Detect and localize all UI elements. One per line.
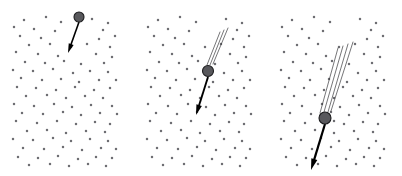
field-dot xyxy=(249,148,252,151)
field-dot xyxy=(166,139,169,142)
field-dot xyxy=(294,130,297,133)
field-dot xyxy=(13,103,16,106)
field-dot xyxy=(189,89,192,92)
figure-canvas xyxy=(0,0,402,176)
field-dot xyxy=(354,43,357,46)
field-dot xyxy=(284,86,287,89)
field-dot xyxy=(281,26,284,29)
field-dot xyxy=(46,129,49,132)
field-dot xyxy=(243,46,246,49)
field-dot xyxy=(68,165,71,168)
field-dot xyxy=(17,156,20,159)
field-dot xyxy=(204,46,207,49)
field-dot xyxy=(348,114,351,117)
field-dot xyxy=(227,89,230,92)
field-dot xyxy=(373,165,376,168)
field-dot xyxy=(146,138,149,141)
field-dot xyxy=(183,163,186,166)
field-dot xyxy=(25,95,28,98)
field-dot xyxy=(175,79,178,82)
field-dot xyxy=(65,97,68,100)
field-dot xyxy=(178,62,181,65)
field-dot xyxy=(375,140,378,143)
field-dot xyxy=(382,35,385,38)
field-dot xyxy=(314,94,317,97)
field-dot xyxy=(228,121,231,124)
field-dot xyxy=(111,105,114,108)
field-dot xyxy=(26,130,29,133)
field-dot xyxy=(202,165,205,168)
field-dot xyxy=(147,103,150,106)
field-dot xyxy=(383,79,386,82)
field-dot xyxy=(241,22,244,25)
field-dot xyxy=(115,148,118,151)
field-dot xyxy=(338,140,341,143)
field-dot xyxy=(44,62,47,65)
field-dot xyxy=(89,70,92,73)
field-dot xyxy=(357,138,360,141)
field-dot xyxy=(214,63,217,66)
field-dot xyxy=(339,106,342,109)
field-dot xyxy=(377,87,380,90)
field-dot xyxy=(362,121,365,124)
field-dot xyxy=(100,147,103,150)
field-dot xyxy=(300,70,303,73)
field-dot xyxy=(41,79,44,82)
field-dot xyxy=(296,44,299,47)
field-dot xyxy=(159,95,162,98)
field-dot xyxy=(205,106,208,109)
field-dot xyxy=(176,113,179,116)
field-dot xyxy=(293,95,296,98)
field-dot xyxy=(56,120,59,123)
field-dot xyxy=(53,103,56,106)
field-dot xyxy=(75,123,78,126)
field-dot xyxy=(349,149,352,152)
field-dot xyxy=(218,95,221,98)
field-dot xyxy=(363,156,366,159)
field-dot xyxy=(312,62,315,65)
field-dot xyxy=(32,139,35,142)
field-dot xyxy=(62,146,65,149)
field-dot xyxy=(343,123,346,126)
field-dot xyxy=(234,147,237,150)
field-dot xyxy=(63,60,66,63)
field-dot xyxy=(57,55,60,58)
field-dot xyxy=(33,105,36,108)
field-dot xyxy=(288,77,291,80)
field-dot xyxy=(155,112,158,115)
field-dot xyxy=(224,104,227,107)
field-dot xyxy=(325,155,328,158)
field-dot xyxy=(352,95,355,98)
figure-background xyxy=(0,0,402,176)
field-dot xyxy=(197,60,200,63)
field-dot xyxy=(107,140,110,143)
field-dot xyxy=(191,55,194,58)
field-dot xyxy=(346,81,349,84)
field-dot xyxy=(171,157,174,160)
field-dot xyxy=(94,121,97,124)
field-dot xyxy=(375,22,378,25)
field-dot xyxy=(358,104,361,107)
field-dot xyxy=(280,69,283,72)
field-dot xyxy=(190,120,193,123)
field-dot xyxy=(208,86,211,89)
field-dot xyxy=(45,16,48,19)
field-dot xyxy=(310,113,313,116)
field-dot xyxy=(211,158,214,161)
field-dot xyxy=(65,132,68,135)
field-dot xyxy=(317,163,320,166)
field-dot xyxy=(186,137,189,140)
field-dot xyxy=(37,157,40,160)
field-dot xyxy=(233,112,236,115)
field-dot xyxy=(12,69,15,72)
field-dot xyxy=(359,18,362,21)
field-dot xyxy=(86,43,89,46)
field-dot xyxy=(157,19,160,22)
field-dot xyxy=(71,106,74,109)
field-dot xyxy=(102,97,105,100)
field-dot xyxy=(320,68,323,71)
field-dot xyxy=(309,79,312,82)
field-dot xyxy=(311,148,314,151)
field-dot xyxy=(383,148,386,151)
field-dot xyxy=(304,122,307,125)
